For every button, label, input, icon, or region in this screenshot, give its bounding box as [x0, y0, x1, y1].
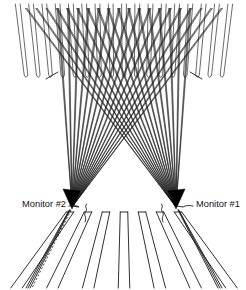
optical-ray-diagram: Monitor #2 Monitor #1: [0, 0, 246, 290]
diagram-canvas: Monitor #2 Monitor #1: [0, 0, 246, 290]
monitor-2-label: Monitor #2: [22, 199, 66, 209]
monitor-1-label: Monitor #1: [196, 199, 240, 209]
